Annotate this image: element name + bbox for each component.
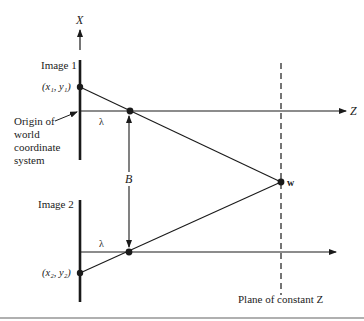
origin-pointer-arrow bbox=[55, 112, 77, 121]
lens2-dot bbox=[126, 249, 133, 256]
ray-top bbox=[80, 87, 281, 182]
z-axis-label: Z bbox=[350, 104, 357, 118]
image2-label: Image 2 bbox=[38, 198, 74, 210]
origin-label-line2: world bbox=[14, 128, 40, 140]
plane-label: Plane of constant Z bbox=[238, 293, 324, 305]
point1-dot bbox=[77, 84, 83, 90]
x-axis-label: X bbox=[75, 13, 84, 27]
lambda-top-label: λ bbox=[99, 116, 104, 127]
origin-label-line4: system bbox=[14, 154, 45, 166]
world-point-label: w bbox=[287, 177, 295, 188]
point2-label: (x₂, y₂) bbox=[42, 267, 71, 279]
world-point-dot bbox=[278, 179, 285, 186]
image1-label: Image 1 bbox=[41, 59, 77, 71]
stereo-diagram: X Image 1 Image 2 Z Plane of constant Z … bbox=[0, 0, 364, 321]
point2-dot bbox=[77, 270, 83, 276]
lambda-bottom-label: λ bbox=[99, 238, 104, 249]
point1-label: (x₁, y₁) bbox=[42, 81, 71, 93]
origin-label-line3: coordinate bbox=[14, 141, 61, 153]
lens1-dot bbox=[127, 108, 134, 115]
origin-label-line1: Origin of bbox=[14, 115, 55, 127]
baseline-label: B bbox=[125, 172, 133, 186]
ray-bottom bbox=[80, 182, 281, 273]
